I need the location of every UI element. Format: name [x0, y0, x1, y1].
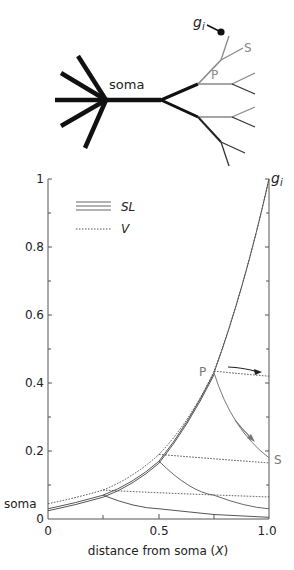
gi-annotation: gi — [271, 170, 283, 188]
svg-text:0.4: 0.4 — [25, 376, 44, 390]
arrows — [228, 367, 262, 442]
V-main-path — [48, 179, 269, 504]
y-tick-labels: 1 0.8 0.6 0.4 0.2 0 — [25, 172, 44, 526]
lower-subtree — [198, 107, 255, 166]
SL-main-path-a — [48, 179, 269, 509]
svg-text:0.8: 0.8 — [25, 240, 44, 254]
SL-main-path-b — [48, 375, 214, 511]
legend: SL V — [76, 200, 135, 236]
sibling-label: S — [244, 41, 252, 55]
SL-branch-05 — [159, 461, 269, 509]
soma-label: soma — [109, 77, 144, 92]
P-annotation: P — [199, 365, 206, 379]
SL-branch-025 — [103, 495, 269, 517]
svg-text:0: 0 — [36, 512, 44, 526]
arrow-right-head — [254, 369, 262, 375]
soma-annotation: soma — [4, 497, 37, 511]
svg-text:0.5: 0.5 — [149, 524, 168, 538]
input-pointer-line — [207, 25, 219, 31]
axes — [48, 179, 269, 519]
arrow-right-line — [228, 367, 258, 372]
svg-text:0.2: 0.2 — [25, 444, 44, 458]
V-branch-025 — [103, 490, 269, 497]
dendritic-tree: gi S P soma — [55, 14, 255, 166]
svg-text:0: 0 — [44, 524, 52, 538]
x-tick-labels: 0 0.5 1.0 — [44, 524, 276, 538]
legend-V-label: V — [121, 222, 130, 236]
parent-label: P — [211, 68, 218, 82]
figure: gi S P soma — [0, 0, 294, 570]
svg-text:1.0: 1.0 — [257, 524, 276, 538]
SL-branch-P-to-S — [214, 373, 269, 458]
svg-text:0.6: 0.6 — [25, 308, 44, 322]
x-axis-label: distance from soma (X) — [88, 544, 228, 558]
input-synapse-dot — [217, 28, 224, 35]
input-label: gi — [193, 14, 205, 32]
svg-text:1: 1 — [36, 172, 44, 186]
voltage-chart: 1 0.8 0.6 0.4 0.2 0 0 0.5 1.0 distance f… — [4, 170, 283, 558]
S-annotation: S — [274, 453, 282, 467]
V-branch-05 — [159, 454, 269, 463]
legend-SL-swatch — [76, 202, 111, 210]
soma-dendrites — [55, 56, 161, 148]
primary-branches — [161, 84, 198, 117]
arrow-down-line — [235, 420, 251, 438]
legend-SL-label: SL — [121, 200, 135, 214]
curves — [48, 179, 269, 517]
